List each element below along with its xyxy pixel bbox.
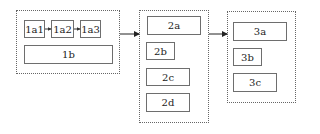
box-3a-label: 3a [254, 26, 266, 37]
box-3a: 3a [233, 22, 287, 41]
box-1a3: 1a3 [80, 20, 101, 38]
box-3c-label: 3c [249, 77, 261, 88]
box-1a2-label: 1a2 [53, 24, 72, 35]
box-1b: 1b [24, 45, 113, 64]
box-1a2: 1a2 [51, 20, 74, 38]
box-1b-label: 1b [62, 49, 75, 60]
box-3c: 3c [233, 73, 277, 92]
box-2b-label: 2b [154, 46, 167, 57]
box-2a: 2a [147, 16, 201, 35]
box-3b: 3b [233, 48, 262, 66]
box-2d: 2d [146, 93, 190, 112]
box-2b: 2b [146, 42, 175, 60]
box-1a1-label: 1a1 [25, 24, 44, 35]
box-2c: 2c [146, 68, 190, 86]
box-2d-label: 2d [162, 97, 175, 108]
box-1a3-label: 1a3 [81, 24, 100, 35]
box-1a1: 1a1 [24, 20, 45, 38]
box-3b-label: 3b [241, 52, 254, 63]
box-2c-label: 2c [162, 72, 174, 83]
box-2a-label: 2a [168, 20, 180, 31]
